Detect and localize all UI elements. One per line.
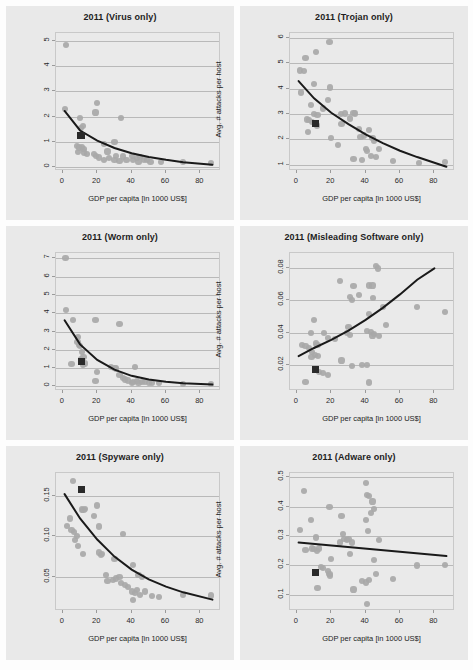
plot-area <box>289 252 454 390</box>
y-axis-label: Avg. # attacks per host <box>214 251 223 389</box>
x-tick-mark <box>96 390 97 393</box>
x-tick-mark <box>330 390 331 393</box>
y-tick-mark <box>52 141 55 142</box>
x-tick-label: 20 <box>82 176 110 185</box>
x-tick-label: 0 <box>282 616 310 625</box>
plot-area <box>55 252 220 390</box>
x-tick-mark <box>296 170 297 173</box>
x-tick-mark <box>199 390 200 393</box>
x-tick-mark <box>399 390 400 393</box>
y-axis-label: Avg. # attacks per host <box>214 471 223 609</box>
x-tick-label: 40 <box>351 616 379 625</box>
chart-panel-2: 2011 (Trojan only)123456020406080Avg. # … <box>240 6 468 220</box>
y-tick-mark <box>286 364 289 365</box>
highlight-marker <box>78 486 85 493</box>
y-tick-mark <box>286 138 289 139</box>
x-tick-label: 20 <box>82 396 110 405</box>
highlight-marker <box>312 120 319 127</box>
x-tick-label: 0 <box>282 176 310 185</box>
x-tick-mark <box>199 170 200 173</box>
y-tick-mark <box>286 594 289 595</box>
x-tick-mark <box>399 610 400 613</box>
x-tick-label: 40 <box>351 396 379 405</box>
x-tick-label: 20 <box>316 396 344 405</box>
x-tick-mark <box>62 610 63 613</box>
y-tick-mark <box>286 332 289 333</box>
x-tick-label: 0 <box>48 616 76 625</box>
x-tick-label: 60 <box>385 616 413 625</box>
x-tick-mark <box>131 390 132 393</box>
y-tick-label: 0.06 <box>276 284 285 314</box>
x-axis-label: GDP per capita [in 1000 US$] <box>289 194 454 203</box>
x-tick-mark <box>199 610 200 613</box>
y-tick-label: 4 <box>276 72 285 102</box>
x-tick-label: 40 <box>351 176 379 185</box>
figure-sheet: 2011 (Virus only)012345020406080Avg. # a… <box>0 0 473 670</box>
panel-title: 2011 (Virus only) <box>6 12 234 22</box>
x-axis-label: GDP per capita [in 1000 US$] <box>289 634 454 643</box>
panel-title: 2011 (Adware only) <box>240 452 468 462</box>
x-tick-mark <box>96 170 97 173</box>
x-tick-label: 80 <box>185 616 213 625</box>
y-tick-mark <box>52 495 55 496</box>
x-tick-label: 20 <box>82 616 110 625</box>
x-tick-label: 80 <box>419 176 447 185</box>
highlight-marker <box>78 358 85 365</box>
y-tick-mark <box>286 62 289 63</box>
y-tick-mark <box>286 506 289 507</box>
y-axis-label: Avg. # attacks per host <box>214 31 223 169</box>
x-tick-label: 40 <box>117 176 145 185</box>
y-tick-mark <box>286 535 289 536</box>
x-tick-label: 60 <box>151 616 179 625</box>
y-tick-mark <box>52 385 55 386</box>
chart-panel-6: 2011 (Adware only)0.10.20.30.40.50204060… <box>240 446 468 660</box>
y-tick-label: 0.04 <box>276 316 285 346</box>
y-tick-label: 2 <box>42 100 51 130</box>
y-tick-mark <box>52 90 55 91</box>
y-tick-mark <box>52 535 55 536</box>
y-tick-mark <box>52 65 55 66</box>
fit-line <box>56 253 220 390</box>
y-tick-label: 0.15 <box>42 479 51 509</box>
x-tick-mark <box>365 390 366 393</box>
x-axis-label: GDP per capita [in 1000 US$] <box>55 414 220 423</box>
x-tick-mark <box>131 170 132 173</box>
y-tick-label: 0.5 <box>276 461 285 491</box>
y-tick-mark <box>286 37 289 38</box>
chart-panel-4: 2011 (Misleading Software only)0.020.040… <box>240 226 468 440</box>
x-tick-mark <box>330 170 331 173</box>
chart-panel-5: 2011 (Spyware only)0.050.100.15020406080… <box>6 446 234 660</box>
x-axis-label: GDP per capita [in 1000 US$] <box>55 194 220 203</box>
y-tick-label: 0.2 <box>276 549 285 579</box>
y-tick-mark <box>52 294 55 295</box>
x-tick-mark <box>62 170 63 173</box>
x-tick-label: 80 <box>185 396 213 405</box>
y-tick-mark <box>286 564 289 565</box>
x-tick-mark <box>165 170 166 173</box>
y-tick-mark <box>52 257 55 258</box>
x-tick-label: 40 <box>117 396 145 405</box>
panel-title: 2011 (Spyware only) <box>6 452 234 462</box>
y-tick-label: 0.3 <box>276 520 285 550</box>
panel-title: 2011 (Misleading Software only) <box>240 232 468 242</box>
chart-panel-1: 2011 (Virus only)012345020406080Avg. # a… <box>6 6 234 220</box>
y-tick-mark <box>52 367 55 368</box>
y-tick-mark <box>52 576 55 577</box>
plot-area <box>55 32 220 170</box>
y-tick-label: 0.05 <box>42 560 51 590</box>
x-tick-label: 60 <box>151 176 179 185</box>
x-tick-label: 0 <box>282 396 310 405</box>
y-tick-mark <box>52 116 55 117</box>
x-tick-mark <box>62 390 63 393</box>
x-tick-mark <box>433 390 434 393</box>
x-tick-mark <box>330 610 331 613</box>
y-tick-mark <box>52 331 55 332</box>
y-tick-mark <box>286 164 289 165</box>
x-tick-mark <box>296 390 297 393</box>
x-tick-mark <box>365 610 366 613</box>
x-tick-label: 20 <box>316 176 344 185</box>
fit-line <box>56 473 220 610</box>
highlight-marker <box>312 366 319 373</box>
x-tick-label: 40 <box>117 616 145 625</box>
x-tick-mark <box>365 170 366 173</box>
